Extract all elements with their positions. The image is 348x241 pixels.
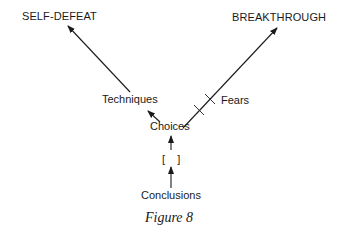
node-self-defeat: SELF-DEFEAT xyxy=(22,11,97,22)
arrow-choices-to-breakthrough xyxy=(183,28,277,128)
node-choices: Choices xyxy=(150,121,190,132)
node-breakthrough: BREAKTHROUGH xyxy=(232,12,326,23)
node-techniques: Techniques xyxy=(102,94,158,105)
node-fears: Fears xyxy=(221,95,249,106)
node-conclusions: Conclusions xyxy=(141,190,201,201)
figure-caption: Figure 8 xyxy=(145,211,193,225)
node-blank-brackets: [ ] xyxy=(162,154,180,165)
figure-8-diagram: SELF-DEFEAT BREAKTHROUGH Techniques Fear… xyxy=(0,0,348,241)
arrow-techniques-to-self-defeat xyxy=(68,26,130,92)
